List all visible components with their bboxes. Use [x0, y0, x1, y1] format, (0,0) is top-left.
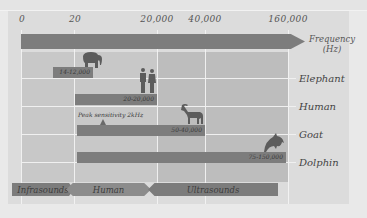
range-label: 20-20,000 [123, 95, 154, 102]
gridline-20 [74, 30, 75, 204]
range-bar-goat: 50-40,000 [77, 125, 205, 136]
row-divider [21, 78, 296, 79]
band-label: Human [93, 185, 125, 195]
frequency-axis-arrow [21, 34, 305, 49]
tick-label: 20,000 [140, 14, 173, 24]
axis-label: Frequency (Hz) [309, 34, 355, 54]
axis-label-line2: (Hz) [309, 44, 355, 54]
axis-label-line1: Frequency [309, 34, 355, 44]
range-bar-elephant: 14-12,000 [53, 67, 93, 78]
range-label: 50-40,000 [171, 126, 202, 133]
range-bar-dolphin: 75-150,000 [77, 152, 286, 163]
top-strip [0, 0, 367, 11]
row-label-dolphin: Dolphin [299, 157, 339, 168]
band-ultrasounds: Ultrasounds [148, 183, 278, 196]
dolphin-icon [263, 133, 285, 153]
gridline-20000 [157, 30, 158, 204]
tick-label: 20 [69, 14, 81, 24]
row-label-elephant: Elephant [299, 73, 345, 84]
band-label: Infrasounds [17, 185, 68, 195]
row-label-goat: Goat [299, 129, 323, 140]
row-label-human: Human [299, 101, 336, 112]
range-label: 14-12,000 [59, 68, 90, 75]
goat-icon [180, 103, 205, 125]
tick-label: 40,000 [188, 14, 221, 24]
peak-sensitivity-annotation: Peak sensitivity 2kHz [78, 111, 143, 118]
band-human: Human [66, 183, 151, 196]
humans-icon [139, 68, 157, 93]
tick-label: 160,000 [268, 14, 307, 24]
band-label: Ultrasounds [187, 185, 240, 195]
band-infrasounds: Infrasounds [12, 183, 74, 196]
row-divider [21, 106, 296, 107]
gridline-0 [21, 30, 22, 204]
tick-label: 0 [19, 14, 25, 24]
range-label: 75-150,000 [249, 153, 283, 160]
range-bar-human: 20-20,000 [75, 94, 157, 105]
gridline-160000 [288, 30, 289, 204]
gridline-40000 [205, 30, 206, 204]
